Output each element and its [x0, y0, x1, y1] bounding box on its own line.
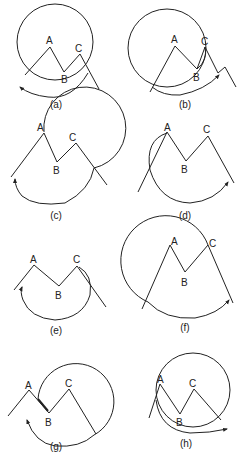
panel-h: A B C (h) — [149, 353, 230, 449]
label-c: C — [209, 238, 216, 249]
label-a: A — [30, 254, 37, 265]
label-c: C — [65, 378, 72, 389]
panel-e: A B C (e) — [14, 254, 106, 336]
label-a: A — [171, 34, 178, 45]
label-c: C — [69, 132, 76, 143]
panel-a: A B C (a) — [17, 4, 99, 110]
arrow-arc — [20, 73, 88, 97]
label-a: A — [157, 374, 164, 385]
label-c: C — [203, 124, 210, 135]
circle-partial — [44, 87, 126, 168]
label-a: A — [25, 380, 32, 391]
label-a: A — [46, 35, 53, 46]
arrow-arc — [148, 300, 229, 318]
panel-g: A B C (g) — [8, 364, 114, 452]
zigzag-path — [138, 132, 234, 192]
label-a: A — [164, 122, 171, 133]
caption: (c) — [50, 210, 62, 221]
panel-f: A B C (f) — [121, 216, 233, 333]
arrow-arc — [152, 75, 219, 95]
label-c: C — [189, 378, 196, 389]
caption: (g) — [50, 441, 62, 452]
zigzag-path — [11, 133, 107, 185]
zigzag-path — [8, 389, 96, 434]
label-b: B — [193, 72, 200, 83]
tangent-highlight — [38, 399, 48, 411]
label-b: B — [55, 290, 62, 301]
circle — [17, 4, 93, 80]
caption: (h) — [180, 438, 192, 449]
label-a: A — [37, 122, 44, 133]
label-c: C — [75, 43, 82, 54]
label-b: B — [45, 417, 52, 428]
zigzag-path — [150, 46, 236, 92]
caption: (d) — [179, 210, 191, 221]
label-b: B — [53, 165, 60, 176]
label-b: B — [181, 164, 188, 175]
caption: (f) — [180, 322, 189, 333]
label-b: B — [181, 277, 188, 288]
label-c: C — [73, 254, 80, 265]
figure-canvas: A B C (a) A B C (b) A B C (c) A B C (d) — [0, 0, 244, 462]
label-a: A — [171, 236, 178, 247]
panel-d: A B C (d) — [138, 122, 234, 221]
label-b: B — [176, 417, 183, 428]
label-b: B — [61, 74, 68, 85]
caption: (b) — [179, 99, 191, 110]
panel-b: A B C (b) — [128, 9, 236, 110]
panel-c: A B C (c) — [11, 87, 126, 221]
caption: (e) — [50, 325, 62, 336]
label-c: C — [201, 36, 208, 47]
